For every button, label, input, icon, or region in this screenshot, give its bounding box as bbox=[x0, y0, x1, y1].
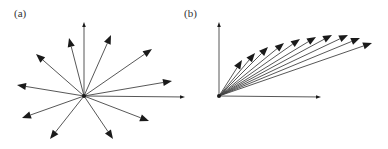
arrowhead-icon bbox=[338, 35, 348, 42]
panel-label-a: (a) bbox=[14, 7, 26, 19]
arrowhead-icon bbox=[322, 35, 332, 42]
vector-arrow bbox=[84, 95, 185, 99]
arrowhead-icon bbox=[105, 130, 113, 139]
arrowhead-icon bbox=[143, 49, 152, 57]
origin-point bbox=[217, 94, 221, 98]
arrowhead-icon bbox=[68, 38, 75, 48]
y-axis bbox=[217, 22, 221, 96]
panel-a-radial-vectors bbox=[17, 22, 185, 139]
vector-arrow bbox=[84, 96, 113, 139]
arrowhead-icon bbox=[17, 83, 26, 90]
vector-diagram-figure: (a) (b) bbox=[0, 0, 388, 149]
arrowhead-icon bbox=[22, 112, 32, 119]
arrowhead-icon bbox=[316, 95, 321, 99]
arrowhead-icon bbox=[275, 43, 284, 51]
arrowhead-icon bbox=[163, 79, 172, 86]
arrowhead-icon bbox=[50, 130, 58, 139]
vector-arrow bbox=[82, 22, 86, 96]
arrowhead-icon bbox=[139, 114, 149, 121]
arrowhead-icon bbox=[234, 60, 242, 70]
vector-arrow bbox=[84, 96, 149, 121]
origin-point bbox=[82, 94, 86, 98]
vector-arrow bbox=[17, 83, 84, 96]
vector-arrow bbox=[219, 37, 316, 96]
arrowhead-icon bbox=[350, 38, 360, 45]
arrowhead-icon bbox=[82, 22, 86, 27]
arrowhead-icon bbox=[180, 95, 185, 99]
arrowhead-icon bbox=[104, 35, 111, 45]
arrowhead-icon bbox=[362, 43, 372, 50]
x-axis bbox=[219, 95, 321, 99]
arrowhead-icon bbox=[306, 37, 316, 45]
panel-b-fan-vectors bbox=[217, 22, 372, 99]
vector-diagram-canvas bbox=[0, 0, 388, 149]
arrowhead-icon bbox=[217, 22, 221, 27]
vector-arrow bbox=[219, 47, 268, 96]
vector-arrow bbox=[68, 38, 84, 96]
panel-label-b: (b) bbox=[184, 7, 197, 19]
arrowhead-icon bbox=[291, 39, 300, 47]
vector-arrow bbox=[84, 79, 172, 96]
